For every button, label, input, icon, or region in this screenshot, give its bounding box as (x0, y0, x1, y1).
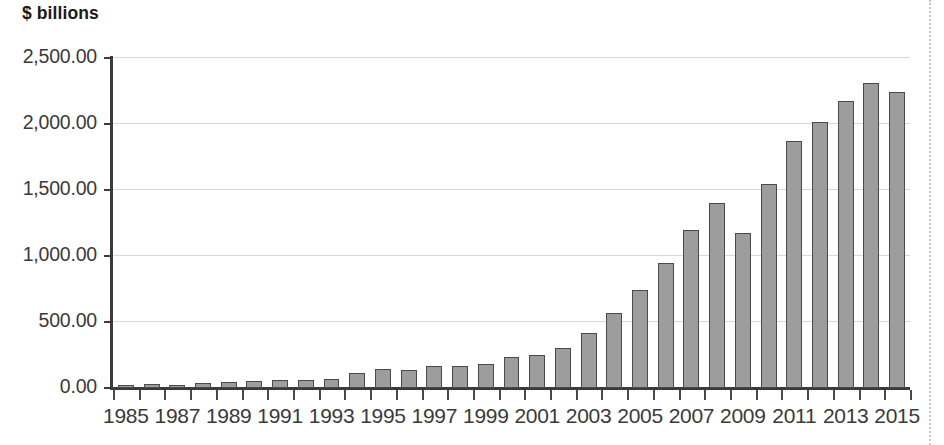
bar (581, 333, 597, 388)
x-axis-tick-mark (550, 390, 552, 400)
x-axis-tick-mark (807, 390, 809, 400)
bar (118, 385, 134, 388)
x-axis-tick-mark (859, 390, 861, 400)
x-axis-tick-mark (216, 390, 218, 400)
bar-chart-figure: $ billions 0.00500.001,000.001,500.002,0… (0, 0, 944, 445)
x-axis-tick-mark (704, 390, 706, 400)
gridline (113, 57, 910, 58)
x-axis-tick-label: 1995 (357, 404, 408, 428)
x-axis-tick-label: 1993 (306, 404, 357, 428)
gridline (113, 123, 910, 124)
bar (683, 230, 699, 388)
x-axis-tick-label: 2005 (614, 404, 665, 428)
y-axis-tick-mark (104, 123, 113, 125)
x-axis-tick-mark (267, 390, 269, 400)
bar (504, 357, 520, 388)
bar (838, 101, 854, 388)
x-axis-tick-mark (113, 390, 115, 400)
x-axis-tick-label: 1985 (100, 404, 151, 428)
bar (555, 348, 571, 388)
bar (452, 366, 468, 388)
x-axis-tick-mark (910, 390, 912, 400)
y-axis-tick-label: 2,000.00 (23, 111, 97, 134)
x-axis-tick-mark (730, 390, 732, 400)
x-axis-tick-mark (756, 390, 758, 400)
x-axis-tick-label: 2007 (666, 404, 717, 428)
x-axis-tick-mark (781, 390, 783, 400)
x-axis-tick-label: 2001 (512, 404, 563, 428)
y-axis-tick-label: 500.00 (39, 309, 97, 332)
bar (195, 383, 211, 388)
bar (863, 83, 879, 388)
bar (761, 184, 777, 388)
x-axis-tick-label: 2015 (871, 404, 922, 428)
x-axis-tick-label: 2011 (769, 404, 820, 428)
bar (812, 122, 828, 388)
x-axis-tick-mark (524, 390, 526, 400)
x-axis-tick-mark (679, 390, 681, 400)
y-axis-tick-mark (104, 321, 113, 323)
bar (889, 92, 905, 388)
bar (786, 141, 802, 388)
y-axis-tick-mark (104, 387, 113, 389)
x-axis-tick-mark (344, 390, 346, 400)
x-axis-tick-mark (833, 390, 835, 400)
x-axis-tick-label: 2003 (563, 404, 614, 428)
bar (426, 366, 442, 388)
x-axis-tick-mark (370, 390, 372, 400)
x-axis-tick-label: 1997 (409, 404, 460, 428)
x-axis-tick-mark (473, 390, 475, 400)
x-axis-tick-mark (499, 390, 501, 400)
y-axis-tick-label: 2,500.00 (23, 45, 97, 68)
x-axis-tick-mark (190, 390, 192, 400)
page-edge-dotted-rule (929, 0, 931, 445)
x-axis-tick-mark (139, 390, 141, 400)
bar (658, 263, 674, 388)
x-axis-tick-label: 2009 (717, 404, 768, 428)
bar (349, 373, 365, 388)
y-axis-tick-label: 1,000.00 (23, 243, 97, 266)
bar (735, 233, 751, 388)
bar (709, 203, 725, 388)
x-axis-tick-mark (601, 390, 603, 400)
x-axis-tick-label: 2013 (820, 404, 871, 428)
x-axis-tick-mark (447, 390, 449, 400)
y-axis-tick-mark (104, 255, 113, 257)
x-axis-tick-label: 1989 (203, 404, 254, 428)
x-axis-tick-mark (319, 390, 321, 400)
bar (324, 379, 340, 388)
y-axis-tick-label: 0.00 (60, 375, 97, 398)
bar (298, 380, 314, 388)
bar (221, 382, 237, 388)
x-axis-tick-mark (576, 390, 578, 400)
x-axis-tick-mark (627, 390, 629, 400)
bar (529, 355, 545, 388)
bar (606, 313, 622, 388)
y-axis-tick-mark (104, 189, 113, 191)
bar (632, 290, 648, 388)
x-axis-tick-mark (422, 390, 424, 400)
x-axis-tick-mark (396, 390, 398, 400)
y-axis-tick-mark (104, 57, 113, 59)
plot-area (113, 58, 910, 388)
bar (144, 384, 160, 388)
x-axis-tick-label: 1987 (152, 404, 203, 428)
bar (169, 385, 185, 388)
x-axis-tick-mark (293, 390, 295, 400)
x-axis-tick-mark (242, 390, 244, 400)
bar (272, 380, 288, 388)
bar (401, 370, 417, 388)
bar (375, 369, 391, 388)
x-axis-tick-label: 1999 (460, 404, 511, 428)
x-axis-tick-mark (164, 390, 166, 400)
x-axis-tick-mark (884, 390, 886, 400)
x-axis-tick-label: 1991 (254, 404, 305, 428)
x-axis-tick-mark (653, 390, 655, 400)
bar (246, 381, 262, 388)
y-axis-tick-label: 1,500.00 (23, 177, 97, 200)
bar (478, 364, 494, 388)
y-axis-title: $ billions (22, 3, 99, 24)
